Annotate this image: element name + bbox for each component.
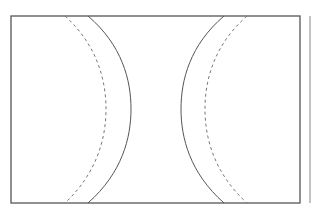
left-solid-arc — [88, 16, 131, 203]
diagram-svg — [0, 0, 312, 218]
frame-rectangle — [11, 16, 300, 203]
right-solid-arc — [181, 16, 224, 203]
right-dashed-arc — [205, 16, 247, 203]
diagram-canvas — [0, 0, 312, 218]
left-dashed-arc — [65, 16, 106, 203]
